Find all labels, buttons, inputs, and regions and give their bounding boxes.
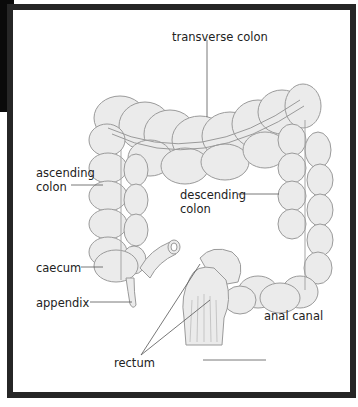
label-caecum: caecum bbox=[36, 261, 81, 275]
label-descending-colon-line2: colon bbox=[180, 202, 211, 216]
label-rectum: rectum bbox=[114, 356, 155, 370]
label-anal-canal: anal canal bbox=[264, 309, 323, 323]
label-ascending-colon-line2: colon bbox=[36, 180, 67, 194]
label-appendix: appendix bbox=[36, 296, 89, 310]
large-intestine-illustration bbox=[0, 0, 358, 407]
appendix-shape bbox=[126, 278, 136, 307]
label-transverse-colon: transverse colon bbox=[172, 30, 268, 44]
caecum-shape bbox=[94, 250, 138, 282]
label-ascending-colon-line1: ascending bbox=[36, 166, 95, 180]
rectum-shape bbox=[183, 267, 229, 345]
label-descending-colon-line1: descending bbox=[180, 188, 246, 202]
